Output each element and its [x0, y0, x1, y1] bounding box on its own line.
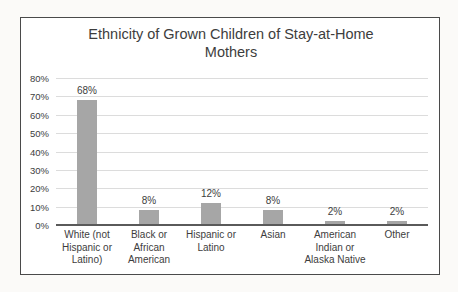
y-axis-tick-label: 50%: [23, 128, 49, 139]
y-axis-tick-label: 20%: [23, 183, 49, 194]
x-category-label: White (not Hispanic or Latino): [56, 229, 118, 267]
y-axis-tick-label: 10%: [23, 201, 49, 212]
y-axis-tick-label: 60%: [23, 109, 49, 120]
x-category-label: Hispanic or Latino: [180, 229, 242, 254]
gridline: [56, 115, 428, 116]
x-category-label: American Indian or Alaska Native: [304, 229, 366, 267]
y-axis-tick-label: 80%: [23, 73, 49, 84]
bar-value-label: 68%: [67, 85, 107, 96]
x-category-label: Black or African American: [118, 229, 180, 267]
gridline: [56, 188, 428, 189]
y-axis-tick-label: 30%: [23, 164, 49, 175]
bar-value-label: 2%: [377, 206, 417, 217]
bar-value-label: 8%: [253, 195, 293, 206]
bar: [139, 210, 159, 225]
bar-value-label: 8%: [129, 195, 169, 206]
gridline: [56, 207, 428, 208]
bar: [77, 100, 97, 225]
bar-value-label: 2%: [315, 206, 355, 217]
y-axis-tick-label: 0%: [23, 220, 49, 231]
gridline: [56, 133, 428, 134]
x-axis-line: [56, 224, 428, 226]
gridline: [56, 152, 428, 153]
bar-value-label: 12%: [191, 188, 231, 199]
plot-area: 0%10%20%30%40%50%60%70%80%68%White (not …: [21, 18, 439, 274]
x-category-label: Asian: [242, 229, 304, 242]
x-category-label: Other: [366, 229, 428, 242]
bar: [201, 203, 221, 225]
gridline: [56, 170, 428, 171]
y-axis-tick-label: 70%: [23, 91, 49, 102]
bar-chart-frame: Ethnicity of Grown Children of Stay-at-H…: [20, 17, 440, 275]
bar: [263, 210, 283, 225]
gridline: [56, 78, 428, 79]
gridline: [56, 96, 428, 97]
y-axis-tick-label: 40%: [23, 146, 49, 157]
